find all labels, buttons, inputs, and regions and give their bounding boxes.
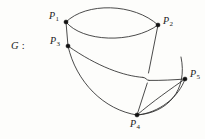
edge-p4-p5-inner — [137, 79, 185, 115]
edge-p3-p5-bridge-hop — [143, 77, 149, 80]
vertex-label-p1: P1 — [49, 11, 59, 21]
vertex-label-p2: P2 — [163, 16, 173, 26]
vertex-label-p2-sub: 2 — [170, 20, 174, 28]
vertex-label-p4-sub: 4 — [137, 123, 141, 131]
vertex-label-p5: P5 — [190, 69, 200, 79]
edge-p1-p2-upper — [66, 8, 158, 25]
vertex-p1 — [64, 20, 68, 24]
vertex-p4 — [135, 113, 139, 117]
edge-p2-p4-upper-segment — [149, 25, 159, 73]
vertex-label-p2-base: P — [163, 15, 169, 26]
graph-name-label: G: — [11, 41, 25, 52]
vertex-label-p1-sub: 1 — [56, 15, 60, 23]
edge-p3-p5-left-segment — [68, 46, 143, 77]
vertex-label-p4: P4 — [130, 119, 140, 129]
vertex-p3 — [66, 44, 70, 48]
vertex-p5 — [183, 77, 187, 81]
vertex-p2 — [156, 23, 160, 27]
vertex-label-p3: P3 — [50, 36, 60, 46]
edge-p3-p5-right-segment — [149, 79, 185, 80]
graph-figure: G: P1 P2 P3 P4 P5 — [0, 0, 205, 139]
graph-drawing-canvas — [0, 0, 205, 139]
vertex-label-p1-base: P — [49, 10, 55, 21]
graph-name-colon: : — [22, 40, 25, 51]
edge-p1-p2-lower — [66, 22, 158, 38]
vertex-label-p4-base: P — [130, 118, 136, 129]
vertex-label-p5-base: P — [190, 68, 196, 79]
edge-p1-p3 — [66, 22, 68, 46]
vertex-label-p3-base: P — [50, 35, 56, 46]
edge-p3-p4-outer — [68, 46, 137, 115]
vertex-label-p5-sub: 5 — [197, 73, 201, 81]
graph-name-text: G — [11, 40, 19, 51]
vertex-label-p3-sub: 3 — [57, 40, 61, 48]
